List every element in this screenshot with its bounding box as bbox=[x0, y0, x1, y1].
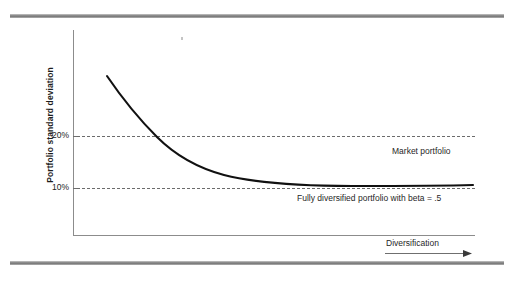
figure-page: Portfolio standard deviation 20% 10% Mar… bbox=[0, 0, 514, 282]
annotation-fully-diversified: Fully diversified portfolio with beta = … bbox=[297, 193, 441, 203]
x-axis-title: Diversification bbox=[386, 238, 439, 248]
curve-path bbox=[107, 76, 473, 186]
x-axis-arrow-icon bbox=[385, 249, 473, 258]
chart-plot-area: Portfolio standard deviation 20% 10% Mar… bbox=[0, 0, 514, 282]
annotation-market-portfolio: Market portfolio bbox=[392, 146, 451, 156]
